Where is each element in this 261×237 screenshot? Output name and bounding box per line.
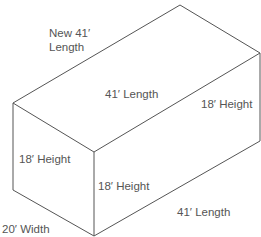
label-left-height: 18′ Height [19,152,70,166]
label-front-height: 18′ Height [98,179,149,193]
edge-back-top-to-right-top [180,5,260,53]
label-top-length: 41′ Length [105,87,158,101]
box-diagram [0,0,261,237]
label-new-length-line2: Length [49,40,90,54]
label-right-height: 18′ Height [201,97,252,111]
label-new-length-line1: New 41′ [49,26,90,40]
label-width: 20′ Width [2,222,50,236]
label-new-length: New 41′ Length [49,26,90,54]
edge-left-top-to-front-top [13,103,94,152]
label-bottom-length: 41′ Length [177,205,230,219]
